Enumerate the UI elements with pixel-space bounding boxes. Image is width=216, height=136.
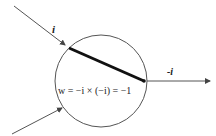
input-edge-top: [14, 6, 65, 45]
neuron-diagram: i -i w = −i × (−i) = −1: [0, 0, 216, 136]
input-label-top: i: [52, 23, 56, 35]
weight-line: [69, 48, 144, 81]
weight-formula: w = −i × (−i) = −1: [58, 85, 131, 97]
output-label: -i: [167, 66, 173, 77]
input-edge-bottom: [12, 108, 62, 134]
weight-line-end-dot: [142, 79, 146, 83]
